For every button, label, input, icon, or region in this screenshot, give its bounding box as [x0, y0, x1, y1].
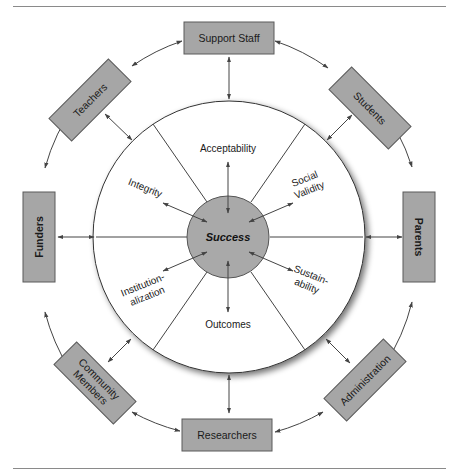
dimension-outcomes: Outcomes	[205, 319, 251, 330]
svg-text:Funders: Funders	[33, 216, 45, 258]
dimension-acceptability: Acceptability	[200, 143, 256, 154]
svg-text:Researchers: Researchers	[197, 429, 257, 441]
success-label: Success	[206, 231, 251, 243]
stakeholder-support-staff: Support Staff	[184, 22, 274, 54]
stakeholder-students: Students	[329, 67, 411, 149]
svg-text:Support Staff: Support Staff	[198, 32, 259, 44]
stakeholder-community-members: Community Members	[54, 342, 136, 424]
stakeholder-parents: Parents	[403, 192, 435, 282]
stakeholder-teachers: Teachers	[49, 59, 131, 141]
stakeholder-funders: Funders	[23, 192, 55, 282]
success-diagram: Success Acceptability Social Validity Su…	[0, 0, 457, 473]
stakeholder-researchers: Researchers	[182, 419, 272, 451]
svg-text:Parents: Parents	[413, 218, 425, 257]
stakeholder-administration: Administration	[324, 339, 406, 421]
